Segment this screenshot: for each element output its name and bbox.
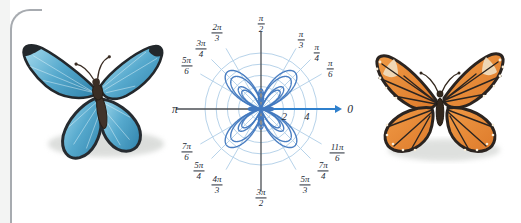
angle-label-3pi-4: 3π4 — [195, 38, 206, 59]
angle-label-pi-2: π2 — [258, 13, 265, 34]
textbook-figure: 24 0π6π4π3π22π33π45π6π7π65π44π33π25π37π4… — [0, 0, 521, 223]
monarch-butterfly-image — [360, 38, 520, 166]
angle-label-0: 0 — [347, 103, 353, 116]
blue-butterfly-image — [18, 22, 178, 168]
angle-label-pi-3: π3 — [298, 29, 305, 50]
angle-label-2pi-3: 2π3 — [211, 22, 222, 43]
angle-label-4pi-3: 4π3 — [211, 175, 222, 196]
radial-tick-label-4: 4 — [304, 111, 310, 122]
butterfly-abdomen — [436, 98, 444, 126]
angle-label-pi: π — [172, 103, 178, 116]
angle-label-3pi-2: 3π2 — [255, 187, 266, 208]
angle-label-11pi-6: 11π6 — [330, 142, 345, 163]
angle-label-5pi-3: 5π3 — [299, 175, 310, 196]
angle-label-7pi-6: 7π6 — [181, 141, 192, 162]
monarch-forewing-left — [377, 56, 436, 110]
angle-label-5pi-4: 5π4 — [193, 161, 204, 182]
radial-tick-label-2: 2 — [282, 111, 288, 122]
page-edge-margin — [0, 0, 10, 223]
angle-label-pi-6: π6 — [327, 58, 334, 79]
angle-label-pi-4: π4 — [314, 43, 321, 64]
angle-label-7pi-4: 7π4 — [318, 161, 329, 182]
monarch-forewing-right — [444, 54, 503, 108]
angle-label-5pi-6: 5π6 — [181, 55, 192, 76]
polar-butterfly-chart: 24 0π6π4π3π22π33π45π6π7π65π44π33π25π37π4… — [168, 0, 360, 223]
monarch-body-and-wings — [376, 54, 505, 152]
theta-zero-arrowhead — [335, 105, 342, 113]
